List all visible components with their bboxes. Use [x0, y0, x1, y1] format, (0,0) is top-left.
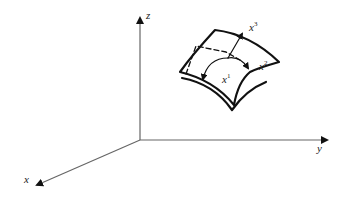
x3-arrow: [228, 34, 242, 58]
x2-label: x2: [259, 60, 267, 72]
x1-label: x1: [222, 73, 230, 85]
x-axis: [37, 140, 140, 185]
x3-label: x3: [249, 21, 257, 33]
z-axis-label: z: [146, 10, 150, 21]
x1-superscript: 1: [227, 72, 231, 80]
y-axis-label: y: [317, 143, 322, 154]
axes: [37, 18, 327, 185]
diagram-canvas: z y x x3 x2 x1: [0, 0, 341, 201]
x-axis-label: x: [24, 174, 29, 185]
x3-superscript: 3: [254, 20, 258, 28]
x2-arrow: [228, 58, 248, 68]
x2-superscript: 2: [264, 59, 268, 67]
diagram-svg: [0, 0, 341, 201]
